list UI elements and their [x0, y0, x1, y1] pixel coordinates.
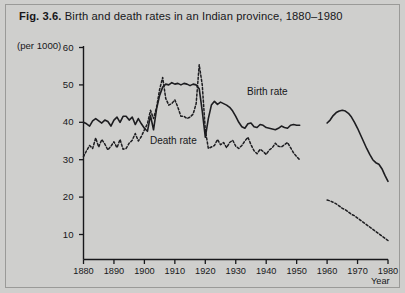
birth-rate-line-segment-2	[327, 110, 388, 181]
y-tick-label-60: 60	[54, 42, 74, 53]
x-tick-label-1940: 1940	[249, 266, 283, 276]
y-tick-label-20: 20	[54, 191, 74, 202]
x-tick-label-1880: 1880	[67, 266, 101, 276]
x-tick-label-1920: 1920	[188, 266, 222, 276]
y-tick-label-40: 40	[54, 116, 74, 127]
x-tick-label-1950: 1950	[280, 266, 314, 276]
x-tick-label-1970: 1970	[341, 266, 375, 276]
x-tick-label-1900: 1900	[127, 266, 161, 276]
death-rate-series-label: Death rate	[150, 135, 197, 146]
y-tick-label-50: 50	[54, 79, 74, 90]
birth-rate-series-label: Birth rate	[247, 86, 288, 97]
y-tick-label-10: 10	[54, 229, 74, 240]
x-tick-label-1910: 1910	[158, 266, 192, 276]
x-axis-label: Year	[371, 276, 390, 286]
axis-lines	[84, 46, 389, 260]
x-tick-label-1980: 1980	[371, 266, 405, 276]
x-tick-label-1960: 1960	[310, 266, 344, 276]
figure-container: Fig. 3.6. Birth and death rates in an In…	[0, 0, 405, 293]
x-tick-label-1930: 1930	[219, 266, 253, 276]
y-tick-label-30: 30	[54, 154, 74, 165]
x-tick-label-1890: 1890	[97, 266, 131, 276]
data-series-paths	[84, 65, 389, 241]
death-rate-line-segment-2	[327, 200, 388, 240]
